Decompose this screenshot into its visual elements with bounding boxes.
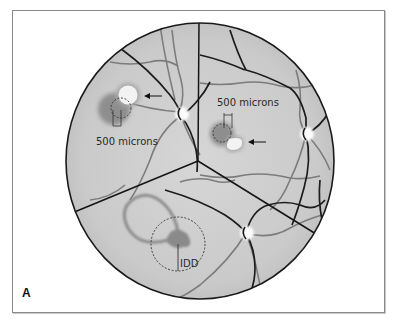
optic-disc-top-left bbox=[175, 107, 189, 121]
optic-disc-bottom bbox=[240, 226, 254, 240]
scale-label-bottom: IDD bbox=[180, 258, 199, 269]
scale-label-top-left: 500 microns bbox=[96, 136, 158, 147]
fundus-diagram: 500 microns 500 microns IDD A bbox=[0, 0, 393, 324]
fundus-circle bbox=[66, 23, 334, 299]
scale-label-top-right: 500 microns bbox=[217, 97, 279, 108]
optic-disc-top-right bbox=[300, 127, 314, 141]
panel-label: A bbox=[22, 286, 31, 300]
